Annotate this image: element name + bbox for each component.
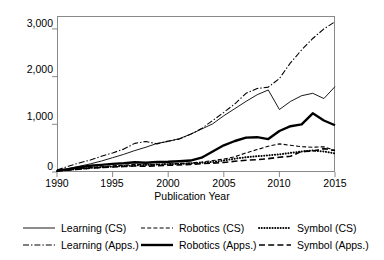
legend-label: Learning (CS) — [61, 222, 126, 234]
legend-swatch — [258, 223, 292, 233]
legend-label: Symbol (Apps.) — [297, 239, 369, 251]
legend-swatch — [22, 240, 56, 250]
chart-legend: Learning (CS)Robotics (CS)Symbol (CS)Lea… — [22, 219, 374, 253]
legend-entry[interactable]: Learning (Apps.) — [22, 236, 140, 253]
legend-label: Symbol (CS) — [297, 222, 357, 234]
series-line — [57, 22, 335, 170]
legend-entry[interactable]: Symbol (CS) — [258, 219, 374, 236]
chart-figure: 3,000 2,000 1,000 0 1990 1995 2000 2005 … — [0, 0, 384, 260]
legend-entry[interactable]: Robotics (Apps.) — [140, 236, 258, 253]
legend-label: Robotics (CS) — [179, 222, 244, 234]
legend-label: Learning (Apps.) — [61, 239, 139, 251]
legend-swatch — [258, 240, 292, 250]
series-line — [57, 144, 335, 171]
legend-entry[interactable]: Symbol (Apps.) — [258, 236, 374, 253]
legend-label: Robotics (Apps.) — [179, 239, 257, 251]
legend-entry[interactable]: Robotics (CS) — [140, 219, 258, 236]
legend-swatch — [22, 223, 56, 233]
legend-entry[interactable]: Learning (CS) — [22, 219, 140, 236]
legend-swatch — [140, 223, 174, 233]
legend-swatch — [140, 240, 174, 250]
